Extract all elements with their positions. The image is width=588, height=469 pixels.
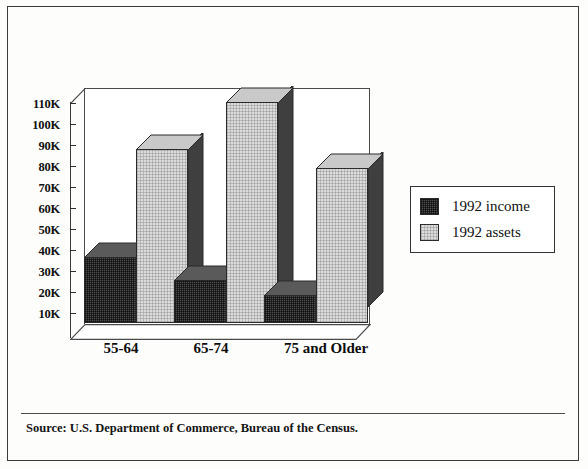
y-tick-label: 70K: [38, 181, 60, 195]
bar-side-face: [368, 168, 383, 323]
bar-top-face: [316, 153, 383, 169]
plot-floor: [70, 324, 370, 339]
bar-income-65-74: [174, 280, 226, 323]
bar-top-face: [136, 134, 203, 150]
bar-front-face: [316, 168, 368, 323]
source-note: Source: U.S. Department of Commerce, Bur…: [26, 421, 358, 436]
y-tick-label: 90K: [38, 139, 60, 153]
y-tick-label: 40K: [38, 244, 60, 258]
bar-income-75-and-older: [264, 295, 316, 323]
y-axis-line: [70, 102, 71, 338]
y-axis-labels: 110K 100K 90K 80K 70K 60K 50K 40K: [18, 88, 66, 338]
y-tick-label: 80K: [38, 160, 60, 174]
bar-front-face: [174, 280, 226, 323]
legend-item-income: 1992 income: [420, 195, 530, 217]
bar-front-face: [264, 295, 316, 323]
y-tick-label: 110K: [33, 97, 60, 111]
plot-depth-corner: [70, 88, 85, 103]
legend-swatch-assets-icon: [420, 224, 439, 241]
y-tick-label: 30K: [38, 265, 60, 279]
bar-assets-75-and-older: [316, 168, 368, 323]
x-axis-label-65-74: 65-74: [168, 340, 254, 357]
y-tick-label: 20K: [38, 286, 60, 300]
plot-area: 110K 100K 90K 80K 70K 60K 50K 40K: [70, 88, 370, 338]
x-axis-label-55-64: 55-64: [78, 340, 164, 357]
legend-label-assets: 1992 assets: [452, 224, 521, 241]
bar-top-face: [226, 87, 293, 103]
bar-income-55-64: [84, 257, 136, 323]
legend-item-assets: 1992 assets: [420, 221, 521, 243]
chart-legend: 1992 income 1992 assets: [410, 186, 555, 253]
figure-page: 110K 100K 90K 80K 70K 60K 50K 40K: [0, 0, 588, 469]
legend-label-income: 1992 income: [452, 198, 530, 215]
y-tick-label: 100K: [32, 118, 60, 132]
x-axis-label-75-and-older: 75 and Older: [258, 340, 394, 357]
y-tick-label: 60K: [38, 202, 60, 216]
bar-front-face: [84, 257, 136, 323]
y-tick-label: 50K: [38, 223, 60, 237]
y-tick-label: 10K: [38, 307, 60, 321]
source-divider: [21, 413, 565, 414]
legend-swatch-income-icon: [420, 198, 439, 215]
